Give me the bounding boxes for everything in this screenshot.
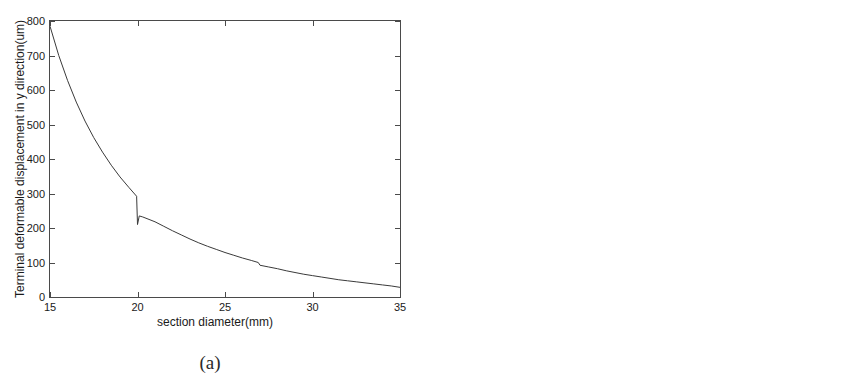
x-tick-a-3: [313, 292, 314, 297]
y-tick-a-5: [50, 125, 55, 126]
x-tick-label-a-2: 25: [219, 301, 231, 313]
x-tick-label-a-0: 15: [44, 301, 56, 313]
y-tick-a-2: [50, 228, 55, 229]
x-tick-label-a-3: 30: [306, 301, 318, 313]
y-tick-a-7: [50, 56, 55, 57]
y-tick-a-0: [50, 297, 55, 298]
y-tick-label-a-8: 800: [27, 15, 45, 27]
panel-b-bar-chart: x 10 -3 0-0.2-0.4-0.6-0.8-1-1.2-1.4-1.6-…: [430, 0, 858, 388]
x-tick-label-a-4: 35: [394, 301, 406, 313]
x-tick-top-a-1: [138, 21, 139, 26]
y-tick-label-a-1: 100: [27, 257, 45, 269]
x-tick-label-a-1: 20: [131, 301, 143, 313]
y-tick-right-a-0: [395, 297, 400, 298]
figure-container: 01002003004005006007008001520253035 Term…: [0, 0, 858, 388]
line-series-a: [50, 21, 400, 297]
displacement-curve: [50, 26, 400, 287]
y-tick-right-a-2: [395, 228, 400, 229]
y-axis-title-a: Terminal deformable displacement in y di…: [13, 20, 27, 298]
caption-a: (a): [150, 352, 270, 374]
y-tick-label-a-4: 400: [27, 153, 45, 165]
y-tick-right-a-1: [395, 263, 400, 264]
x-tick-top-a-0: [50, 21, 51, 26]
x-tick-a-2: [225, 292, 226, 297]
y-tick-label-a-3: 300: [27, 188, 45, 200]
x-tick-top-a-4: [400, 21, 401, 26]
panel-a-line-chart: 01002003004005006007008001520253035 Term…: [0, 0, 430, 388]
y-tick-a-4: [50, 159, 55, 160]
y-tick-right-a-6: [395, 90, 400, 91]
plot-area-a: 01002003004005006007008001520253035: [49, 20, 401, 298]
x-axis-title-a: section diameter(mm): [0, 315, 430, 329]
y-tick-label-a-2: 200: [27, 222, 45, 234]
y-tick-right-a-5: [395, 125, 400, 126]
y-tick-label-a-5: 500: [27, 119, 45, 131]
y-tick-right-a-4: [395, 159, 400, 160]
y-tick-a-6: [50, 90, 55, 91]
y-tick-label-a-7: 700: [27, 50, 45, 62]
y-tick-right-a-3: [395, 194, 400, 195]
x-tick-a-0: [50, 292, 51, 297]
y-tick-right-a-7: [395, 56, 400, 57]
x-tick-a-1: [138, 292, 139, 297]
y-tick-a-3: [50, 194, 55, 195]
y-tick-a-1: [50, 263, 55, 264]
x-tick-a-4: [400, 292, 401, 297]
x-tick-top-a-3: [313, 21, 314, 26]
y-tick-label-a-6: 600: [27, 84, 45, 96]
x-tick-top-a-2: [225, 21, 226, 26]
